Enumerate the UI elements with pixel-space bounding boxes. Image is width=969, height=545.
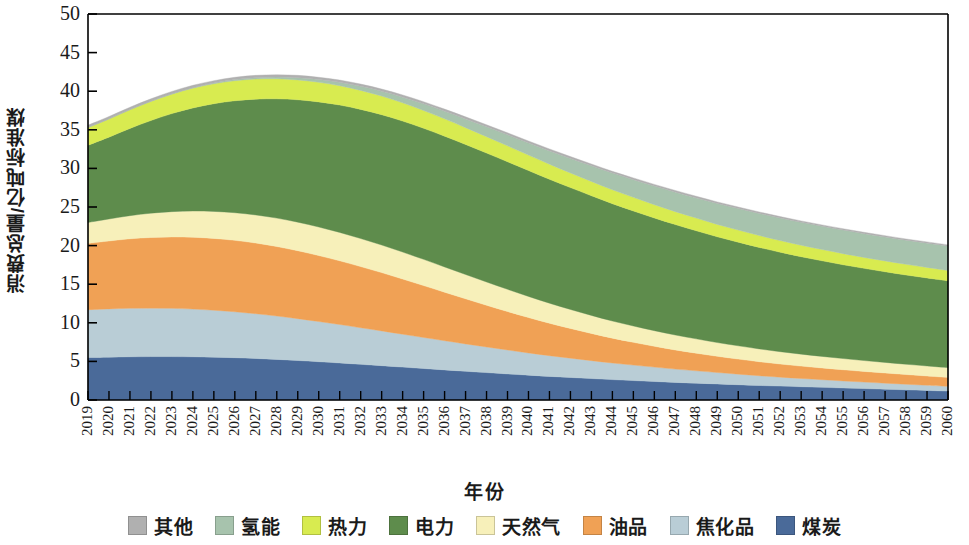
legend-label: 焦化品 [696, 512, 755, 539]
x-tick-label: 2042 [562, 406, 577, 436]
x-tick-label: 2030 [311, 406, 326, 436]
x-tick-label: 2020 [101, 406, 116, 436]
legend-swatch-icon [128, 516, 147, 535]
x-tick-label: 2043 [583, 406, 598, 436]
x-tick-label: 2034 [395, 406, 410, 436]
x-tick-label: 2029 [290, 406, 305, 436]
x-tick-label: 2047 [667, 406, 682, 436]
x-tick-label: 2023 [164, 406, 179, 436]
x-tick-label: 2026 [227, 406, 242, 436]
legend-item[interactable]: 焦化品 [670, 512, 755, 539]
x-tick-label: 2051 [751, 406, 766, 436]
legend-label: 其他 [154, 512, 193, 539]
x-tick-label: 2039 [500, 406, 515, 436]
x-tick-label: 2049 [709, 406, 724, 436]
x-tick-label: 2028 [269, 406, 284, 436]
plot-area [0, 0, 969, 545]
x-tick-label: 2038 [479, 406, 494, 436]
x-tick-label: 2059 [919, 406, 934, 436]
x-tick-label: 2037 [458, 406, 473, 436]
legend-label: 电力 [415, 512, 454, 539]
x-tick-label: 2031 [332, 406, 347, 436]
legend-item[interactable]: 氢能 [215, 512, 280, 539]
legend-swatch-icon [302, 516, 321, 535]
x-tick-label: 2055 [835, 406, 850, 436]
legend-label: 热力 [328, 512, 367, 539]
x-tick-label: 2044 [604, 406, 619, 436]
legend-swatch-icon [476, 516, 495, 535]
legend-swatch-icon [215, 516, 234, 535]
legend-label: 氢能 [241, 512, 280, 539]
x-tick-label: 2021 [122, 406, 137, 436]
legend-item[interactable]: 其他 [128, 512, 193, 539]
legend-swatch-icon [776, 516, 795, 535]
x-tick-label: 2053 [793, 406, 808, 436]
x-tick-label: 2027 [248, 406, 263, 436]
x-tick-label: 2025 [206, 406, 221, 436]
legend-item[interactable]: 天然气 [476, 512, 561, 539]
legend-swatch-icon [670, 516, 689, 535]
chart-legend: 其他氢能热力电力天然气油品焦化品煤炭 [0, 512, 969, 539]
x-tick-label: 2040 [520, 406, 535, 436]
x-tick-label: 2033 [374, 406, 389, 436]
x-tick-label: 2041 [541, 406, 556, 436]
x-axis-title: 年份 [0, 477, 969, 504]
x-tick-label: 2035 [416, 406, 431, 436]
x-tick-label: 2036 [437, 406, 452, 436]
x-tick-label: 2046 [646, 406, 661, 436]
x-tick-label: 2022 [143, 406, 158, 436]
legend-swatch-icon [389, 516, 408, 535]
x-tick-label: 2058 [898, 406, 913, 436]
stacked-area-chart: 消费总量/亿吨标准煤 05101520253035404550 20192020… [0, 0, 969, 545]
x-tick-label: 2024 [185, 406, 200, 436]
legend-item[interactable]: 热力 [302, 512, 367, 539]
stack-areas [88, 75, 948, 400]
x-tick-label: 2054 [814, 406, 829, 436]
x-tick-label: 2052 [772, 406, 787, 436]
legend-label: 天然气 [502, 512, 561, 539]
legend-swatch-icon [583, 516, 602, 535]
x-tick-label: 2060 [940, 406, 955, 436]
x-tick-label: 2032 [353, 406, 368, 436]
x-tick-label: 2056 [856, 406, 871, 436]
legend-item[interactable]: 油品 [583, 512, 648, 539]
x-tick-label: 2019 [80, 406, 95, 436]
x-tick-label: 2057 [877, 406, 892, 436]
legend-item[interactable]: 电力 [389, 512, 454, 539]
legend-label: 油品 [609, 512, 648, 539]
x-tick-label: 2050 [730, 406, 745, 436]
legend-label: 煤炭 [802, 512, 841, 539]
legend-item[interactable]: 煤炭 [776, 512, 841, 539]
x-tick-label: 2045 [625, 406, 640, 436]
x-tick-label: 2048 [688, 406, 703, 436]
